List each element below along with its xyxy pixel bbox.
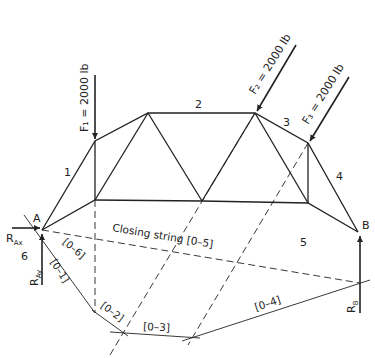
reaction-rax-label: RAx: [6, 232, 23, 247]
diagonal-member: [148, 113, 202, 201]
bottom-chord: [42, 200, 358, 232]
space-1-label: 1: [64, 166, 71, 179]
space-3-label: 3: [283, 116, 290, 129]
node-b-label: B: [362, 219, 370, 232]
space-4-label: 4: [336, 170, 343, 183]
labels: F₁ = 2000 lb F₂ = 2000 lb F₃ = 2000 lb A…: [6, 32, 370, 334]
diagonal-member: [95, 113, 148, 200]
force-f2-label: F₂ = 2000 lb: [247, 32, 294, 97]
space-6-label: 6: [21, 250, 28, 263]
funicular-strings: [24, 215, 370, 341]
truss-diagram: F₁ = 2000 lb F₂ = 2000 lb F₃ = 2000 lb A…: [0, 0, 375, 358]
space-5-label: 5: [300, 236, 307, 249]
force-f3-label: F₃ = 2000 lb: [300, 62, 347, 127]
node-a-label: A: [33, 212, 41, 225]
string-0-6-label: [0–6]: [61, 236, 88, 261]
space-2-label: 2: [195, 98, 202, 111]
string-0-1-label: [0–1]: [48, 257, 71, 284]
reaction-rb-label: RB: [345, 300, 360, 313]
reaction-ray-label: RAy: [28, 270, 43, 286]
diagonal-member: [255, 113, 308, 203]
string-0-2-label: [0–2]: [99, 300, 126, 324]
string-0-3-label: [0–3]: [143, 320, 170, 333]
force-f1-label: F₁ = 2000 lb: [78, 64, 91, 132]
closing-string-label: Closing string [0–5]: [112, 221, 215, 250]
